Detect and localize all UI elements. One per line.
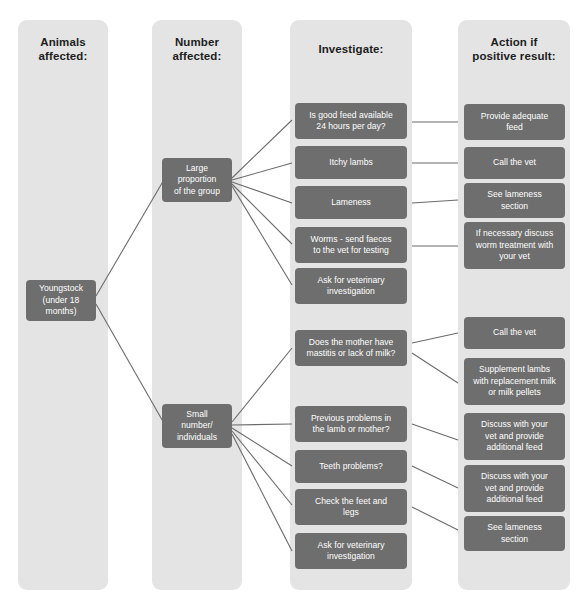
node-call-vet-2[interactable]: Call the vet [464, 317, 565, 349]
node-see-lameness-1-label: See lameness section [468, 189, 561, 212]
node-small-number-label: Small number/ individuals [166, 409, 228, 444]
node-itchy-lambs[interactable]: Itchy lambs [295, 146, 407, 179]
node-supplement-lambs-label: Supplement lambs with replacement milk o… [468, 364, 561, 399]
node-teeth-problems[interactable]: Teeth problems? [295, 450, 407, 483]
node-previous-problems[interactable]: Previous problems in the lamb or mother? [295, 406, 407, 442]
column-title-animals-affected: Animals affected: [18, 35, 108, 63]
node-itchy-lambs-label: Itchy lambs [299, 157, 403, 169]
node-discuss-vet-2-label: Discuss with your vet and provide additi… [468, 471, 561, 506]
node-teeth-problems-label: Teeth problems? [299, 461, 403, 473]
node-see-lameness-2[interactable]: See lameness section [464, 516, 565, 551]
column-title-investigate: Investigate: [290, 42, 412, 56]
node-check-feet[interactable]: Check the feet and legs [295, 489, 407, 525]
node-worm-treatment-label: If necessary discuss worm treatment with… [468, 228, 561, 263]
column-number-affected [152, 20, 242, 590]
node-discuss-vet-1[interactable]: Discuss with your vet and provide additi… [464, 413, 565, 460]
link-mastitis-to-call-vet-2 [412, 333, 458, 343]
node-worms[interactable]: Worms - send faeces to the vet for testi… [295, 227, 407, 263]
node-ask-vet-2-label: Ask for veterinary investigation [299, 540, 403, 563]
node-large-proportion-label: Large proportion of the group [166, 163, 228, 198]
node-call-vet-2-label: Call the vet [468, 327, 561, 339]
node-youngstock-label: Youngstock (under 18 months) [30, 283, 92, 318]
node-check-feet-label: Check the feet and legs [299, 496, 403, 519]
column-title-number-affected: Number affected: [152, 35, 242, 63]
link-teeth-to-discuss-2 [412, 466, 458, 488]
node-previous-problems-label: Previous problems in the lamb or mother? [299, 413, 403, 436]
node-ask-vet-1-label: Ask for veterinary investigation [299, 275, 403, 298]
node-ask-vet-2[interactable]: Ask for veterinary investigation [295, 533, 407, 569]
node-see-lameness-2-label: See lameness section [468, 522, 561, 545]
column-title-action: Action if positive result: [458, 35, 570, 63]
node-youngstock[interactable]: Youngstock (under 18 months) [26, 280, 96, 321]
node-lameness-label: Lameness [299, 197, 403, 209]
link-feet-to-see-lameness-2 [412, 507, 458, 530]
node-discuss-vet-2[interactable]: Discuss with your vet and provide additi… [464, 465, 565, 512]
node-call-vet-1-label: Call the vet [468, 157, 561, 169]
node-good-feed[interactable]: Is good feed available 24 hours per day? [295, 103, 407, 139]
node-call-vet-1[interactable]: Call the vet [464, 147, 565, 179]
node-mother-mastitis-label: Does the mother have mastitis or lack of… [299, 337, 403, 360]
link-lameness-to-see-lameness [412, 200, 458, 203]
node-supplement-lambs[interactable]: Supplement lambs with replacement milk o… [464, 358, 565, 405]
node-provide-feed-label: Provide adequate feed [468, 111, 561, 134]
node-discuss-vet-1-label: Discuss with your vet and provide additi… [468, 419, 561, 454]
node-provide-feed[interactable]: Provide adequate feed [464, 104, 565, 140]
node-worm-treatment[interactable]: If necessary discuss worm treatment with… [464, 222, 565, 269]
node-mother-mastitis[interactable]: Does the mother have mastitis or lack of… [295, 330, 407, 366]
link-previous-to-discuss-1 [412, 424, 458, 440]
node-worms-label: Worms - send faeces to the vet for testi… [299, 234, 403, 257]
node-see-lameness-1[interactable]: See lameness section [464, 183, 565, 218]
node-lameness[interactable]: Lameness [295, 186, 407, 219]
flowchart-canvas: Animals affected: Number affected: Inves… [0, 0, 588, 606]
node-large-proportion[interactable]: Large proportion of the group [162, 158, 232, 202]
node-small-number[interactable]: Small number/ individuals [162, 404, 232, 448]
node-ask-vet-1[interactable]: Ask for veterinary investigation [295, 268, 407, 304]
node-good-feed-label: Is good feed available 24 hours per day? [299, 110, 403, 133]
link-mastitis-to-supplement [412, 353, 458, 383]
